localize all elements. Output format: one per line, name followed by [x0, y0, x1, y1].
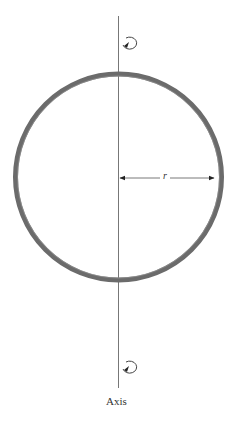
ring-diagram [0, 0, 233, 429]
rotation-arrow-top-icon [123, 37, 137, 49]
axis-label: Axis [0, 395, 233, 407]
radius-label: r [160, 170, 170, 181]
rotation-arrow-bottom-icon [123, 361, 137, 373]
